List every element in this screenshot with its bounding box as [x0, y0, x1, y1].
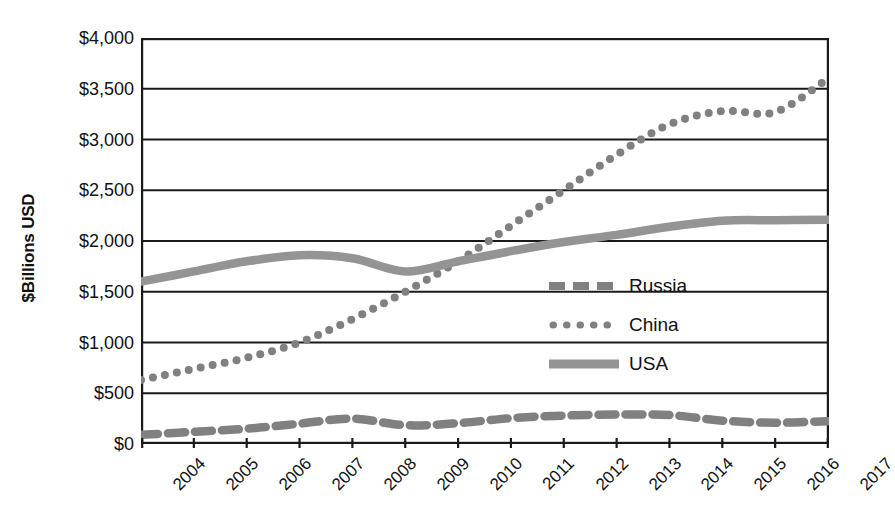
x-axis-tick-label: 2012	[592, 454, 633, 495]
data-point	[669, 119, 677, 127]
plot-area	[141, 38, 829, 444]
legend-label-russia: Russia	[629, 276, 687, 295]
legend-key-russia-dashed-line-icon	[547, 279, 621, 293]
data-point	[161, 371, 169, 379]
x-axis-tick-label: 2015	[750, 454, 791, 495]
data-point	[149, 374, 157, 382]
data-point	[475, 244, 483, 252]
data-point	[705, 109, 713, 117]
data-point	[788, 100, 796, 108]
data-point	[777, 106, 785, 114]
data-point	[336, 321, 344, 329]
data-point	[627, 142, 635, 150]
data-point	[741, 108, 749, 116]
data-point	[423, 276, 431, 284]
y-axis-tick-labels: $0$500$1,000$1,500$2,000$2,500$3,000$3,5…	[28, 0, 134, 528]
data-point	[576, 175, 584, 183]
data-point	[586, 168, 594, 176]
chart-legend: Russia China USA	[547, 266, 712, 383]
legend-label-china: China	[629, 315, 679, 334]
data-point	[233, 356, 241, 364]
data-point	[209, 361, 217, 369]
data-point	[358, 310, 366, 318]
series-china	[141, 79, 826, 384]
legend-key-china-dotted-line-icon	[547, 318, 621, 332]
data-point	[515, 216, 523, 224]
data-point	[369, 305, 377, 313]
data-point	[141, 376, 145, 384]
data-point	[808, 86, 816, 94]
legend-label-usa: USA	[629, 354, 668, 373]
y-axis-tick-label: $500	[39, 383, 134, 404]
legend-item-usa: USA	[547, 344, 712, 383]
y-axis-tick-label: $2,500	[39, 180, 134, 201]
x-axis-tick-label: 2004	[169, 454, 210, 495]
series-line	[141, 220, 828, 282]
data-point	[380, 299, 388, 307]
data-point	[637, 135, 645, 143]
series-russia	[141, 414, 828, 434]
y-axis-tick-label: $1,000	[39, 332, 134, 353]
legend-item-china: China	[547, 305, 712, 344]
data-point	[173, 368, 181, 376]
data-point	[616, 148, 624, 156]
x-axis-tick-labels: 2004200520062007200820092010201120122013…	[141, 448, 829, 528]
data-point	[303, 336, 311, 344]
data-point	[798, 93, 806, 101]
data-point	[693, 112, 701, 120]
data-point	[505, 223, 513, 231]
data-point	[221, 359, 229, 367]
data-point	[525, 210, 533, 218]
data-point	[765, 109, 773, 117]
y-axis-tick-label: $1,500	[39, 281, 134, 302]
data-point	[256, 350, 264, 358]
y-axis-tick-label: $3,000	[39, 129, 134, 150]
data-point	[268, 347, 276, 355]
x-axis-tick-label: 2016	[803, 454, 844, 495]
data-point	[596, 162, 604, 170]
data-point	[185, 366, 193, 374]
x-axis-tick-label: 2007	[328, 454, 369, 495]
x-axis-tick-label: 2009	[433, 454, 474, 495]
x-axis-tick-label: 2006	[275, 454, 316, 495]
data-point	[545, 196, 553, 204]
data-point	[280, 344, 288, 352]
data-point	[535, 203, 543, 211]
data-point	[197, 363, 205, 371]
data-point	[412, 282, 420, 290]
plot-svg	[141, 38, 829, 444]
legend-key-usa-solid-line-icon	[547, 357, 621, 371]
data-point	[401, 288, 409, 296]
data-point	[658, 124, 666, 132]
x-axis-tick-label: 2014	[698, 454, 739, 495]
data-point	[566, 182, 574, 190]
data-point	[818, 79, 826, 87]
y-axis-tick-label: $3,500	[39, 78, 134, 99]
data-point	[729, 107, 737, 115]
x-axis-ticks	[141, 438, 829, 452]
x-axis-tick-label: 2011	[539, 454, 579, 494]
data-point	[314, 331, 322, 339]
data-point	[647, 129, 655, 137]
data-point	[291, 340, 299, 348]
data-point	[606, 155, 614, 163]
y-axis-tick-label: $0	[39, 434, 134, 455]
y-axis-tick-label: $4,000	[39, 28, 134, 49]
data-point	[556, 189, 564, 197]
data-point	[681, 115, 689, 123]
y-axis-tick-label: $2,000	[39, 231, 134, 252]
data-point	[717, 107, 725, 115]
data-point	[347, 316, 355, 324]
series-usa	[141, 220, 828, 282]
x-axis-tick-label: 2017	[856, 454, 895, 495]
data-point	[325, 326, 333, 334]
x-axis-tick-label: 2008	[380, 454, 421, 495]
data-point	[495, 230, 503, 238]
data-point	[244, 353, 252, 361]
data-point	[485, 237, 493, 245]
x-axis-tick-label: 2013	[645, 454, 686, 495]
x-axis-tick-label: 2010	[486, 454, 527, 495]
series-line	[141, 414, 828, 434]
data-point	[391, 293, 399, 301]
